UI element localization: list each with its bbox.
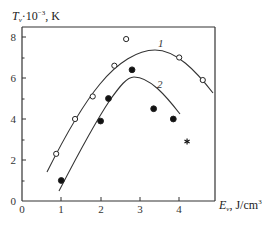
y-label-rest: , K bbox=[45, 9, 60, 23]
filled-circle-marker bbox=[151, 106, 157, 112]
x-tick-label: 0 bbox=[19, 203, 25, 215]
x-tick-label: 1 bbox=[58, 203, 64, 215]
filled-circle-marker bbox=[58, 178, 64, 184]
x-tick-label: 3 bbox=[137, 203, 143, 215]
y-tick-label: 4 bbox=[11, 113, 17, 125]
x-label-sup: 3 bbox=[258, 198, 262, 206]
filled-circle-marker bbox=[106, 96, 112, 102]
chart: 0 1 2 3 4 0 2 4 6 8 Tv·10−3, K Ev, J/cm3… bbox=[0, 0, 269, 230]
filled-circle-marker bbox=[129, 67, 135, 73]
filled-circle-marker bbox=[170, 116, 176, 122]
y-label-mid: ·10 bbox=[22, 9, 38, 23]
asterisk-marker bbox=[184, 139, 189, 145]
x-label-rest: , J/cm bbox=[229, 198, 258, 212]
open-circle-marker bbox=[72, 116, 77, 121]
open-circle-marker bbox=[200, 77, 205, 82]
y-tick-label: 2 bbox=[11, 154, 17, 166]
curve-2 bbox=[59, 77, 180, 191]
curve-1-label: 1 bbox=[158, 37, 164, 49]
filled-circle-marker bbox=[98, 118, 104, 124]
x-tick-label: 2 bbox=[98, 203, 104, 215]
curve-2-label: 2 bbox=[157, 78, 163, 90]
data-markers bbox=[54, 36, 206, 183]
plot-frame bbox=[22, 27, 215, 201]
y-tick-label: 8 bbox=[11, 31, 17, 43]
x-tick-label: 4 bbox=[176, 203, 182, 215]
open-circle-marker bbox=[124, 36, 129, 41]
y-axis-label: Tv·10−3, K bbox=[12, 9, 60, 24]
open-circle-marker bbox=[90, 94, 95, 99]
y-tick-label: 6 bbox=[11, 72, 17, 84]
x-axis-label: Ev, J/cm3 bbox=[218, 198, 262, 213]
y-tick-label: 0 bbox=[11, 195, 17, 207]
open-circle-marker bbox=[54, 151, 59, 156]
open-circle-marker bbox=[112, 63, 117, 68]
open-circle-marker bbox=[177, 55, 182, 60]
